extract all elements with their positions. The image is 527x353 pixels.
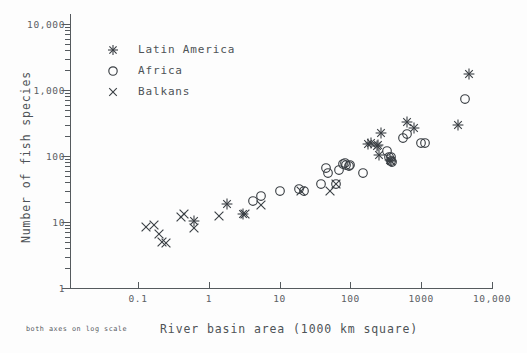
x-tick-label: 1: [206, 293, 212, 304]
y-tick-label: 1: [59, 283, 65, 294]
x-tick-label: 0.1: [129, 293, 148, 304]
chart-figure: 0.1110100100010,0001101001,00010,000 Riv…: [0, 0, 527, 353]
x-tick-label: 100: [341, 293, 360, 304]
y-axis-label: Number of fish species: [19, 57, 33, 257]
log-scale-note: both axes on log scale: [26, 325, 127, 333]
x-axis-label: River basin area (1000 km square): [160, 322, 418, 336]
y-tick-label: 100: [46, 151, 65, 162]
y-tick-label: 10: [52, 217, 65, 228]
x-axis-line: [70, 288, 492, 289]
x-tick-label: 10: [273, 293, 286, 304]
x-tick-label: 10,000: [473, 293, 511, 304]
x-tick: [492, 282, 493, 289]
x-tick-label: 1000: [409, 293, 434, 304]
y-tick-label: 1,000: [33, 85, 65, 96]
y-tick-label: 10,000: [27, 19, 65, 30]
scatter-plot-area: [70, 14, 492, 288]
